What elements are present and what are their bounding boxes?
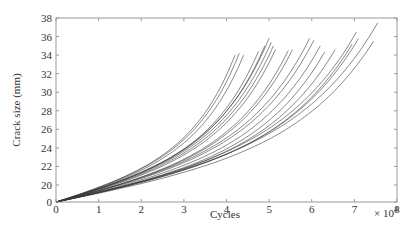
x-tick-label: 2 <box>139 203 145 215</box>
x-tick-label: 1 <box>96 203 102 215</box>
x-tick-label: 6 <box>309 203 315 215</box>
y-tick-label: 24 <box>41 142 53 154</box>
x-multiplier-base: × 10 <box>374 207 394 219</box>
y-tick-label: 34 <box>41 49 53 61</box>
x-multiplier-exponent: 4 <box>394 205 398 214</box>
y-tick-label: 32 <box>41 68 52 80</box>
y-tick-label: 22 <box>41 160 52 172</box>
y-tick-label: 28 <box>41 105 53 117</box>
x-tick-label: 7 <box>352 203 358 215</box>
x-tick-label: 3 <box>181 203 187 215</box>
y-tick-label: 26 <box>41 123 53 135</box>
x-tick-label: 0 <box>53 203 59 215</box>
x-axis-label: Cycles <box>210 208 240 220</box>
y-tick-label: 30 <box>41 86 53 98</box>
crack-growth-chart: 012345678 020222426283032343638 Cycles ×… <box>0 0 416 238</box>
y-tick-label: 20 <box>41 179 53 191</box>
y-tick-label: 0 <box>47 196 53 208</box>
y-tick-label: 38 <box>41 12 53 24</box>
y-tick-label: 36 <box>41 31 53 43</box>
x-multiplier: × 104 <box>374 205 398 219</box>
x-tick-label: 5 <box>266 203 272 215</box>
plot-area <box>56 18 397 202</box>
y-axis-label: Crack size (mm) <box>10 73 23 147</box>
